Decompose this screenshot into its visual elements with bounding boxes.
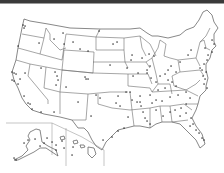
location-dot bbox=[187, 54, 188, 55]
location-dot bbox=[146, 72, 147, 73]
location-dot bbox=[56, 75, 57, 76]
location-dot bbox=[15, 73, 16, 74]
location-dot bbox=[167, 69, 168, 70]
alaska-outline bbox=[14, 129, 58, 160]
location-dot bbox=[149, 65, 150, 66]
location-dot bbox=[201, 69, 202, 70]
location-dot bbox=[204, 78, 205, 79]
location-dot bbox=[195, 129, 196, 130]
location-dot bbox=[207, 54, 208, 55]
location-dot bbox=[55, 144, 56, 145]
location-dot bbox=[84, 76, 85, 77]
location-dot bbox=[131, 54, 132, 55]
location-dot bbox=[211, 51, 212, 52]
location-dot bbox=[149, 123, 150, 124]
location-dot bbox=[169, 96, 170, 97]
inset-frames bbox=[6, 123, 104, 166]
location-dot bbox=[116, 41, 117, 42]
location-dot bbox=[53, 111, 54, 112]
location-dot bbox=[115, 102, 116, 103]
location-dot bbox=[99, 97, 100, 98]
location-dot bbox=[126, 67, 127, 68]
us-outline bbox=[12, 10, 218, 150]
location-dot bbox=[63, 43, 64, 44]
location-dot bbox=[146, 120, 147, 121]
location-dot bbox=[202, 75, 203, 76]
location-dot bbox=[129, 91, 130, 92]
location-dot bbox=[13, 157, 14, 158]
location-dot bbox=[22, 24, 23, 25]
location-dot bbox=[127, 116, 128, 117]
location-dot bbox=[11, 71, 12, 72]
location-dot bbox=[185, 112, 186, 113]
location-dot bbox=[51, 141, 52, 142]
location-dot bbox=[213, 43, 214, 44]
location-dot bbox=[170, 65, 171, 66]
location-dot bbox=[142, 111, 143, 112]
location-dot bbox=[203, 139, 204, 140]
location-dot bbox=[157, 89, 158, 90]
location-dot bbox=[117, 130, 118, 131]
location-dot bbox=[72, 146, 73, 147]
location-dot bbox=[61, 140, 62, 141]
location-dot bbox=[39, 145, 40, 146]
location-dot bbox=[85, 78, 86, 79]
location-dot bbox=[54, 71, 55, 72]
location-dot bbox=[139, 95, 140, 96]
location-dot bbox=[192, 123, 193, 124]
location-dot bbox=[155, 81, 156, 82]
location-dot bbox=[132, 75, 133, 76]
location-dot bbox=[71, 154, 72, 155]
location-dot bbox=[31, 108, 32, 109]
location-dot bbox=[27, 139, 28, 140]
location-dot bbox=[190, 49, 191, 50]
location-dot bbox=[65, 86, 66, 87]
location-dot bbox=[162, 115, 163, 116]
location-dot bbox=[141, 57, 142, 58]
location-dot bbox=[146, 69, 147, 70]
location-dot bbox=[90, 115, 91, 116]
location-dot bbox=[205, 71, 206, 72]
state-borders bbox=[16, 28, 210, 128]
location-dot bbox=[177, 94, 178, 95]
hawaii-outline bbox=[60, 136, 96, 158]
location-dot bbox=[175, 85, 176, 86]
location-dot bbox=[13, 72, 14, 73]
location-dot bbox=[29, 103, 30, 104]
location-dot bbox=[137, 72, 138, 73]
us-map bbox=[0, 0, 224, 173]
location-dot bbox=[53, 38, 54, 39]
location-dot bbox=[175, 71, 176, 72]
location-dot bbox=[11, 79, 12, 80]
location-dot bbox=[23, 27, 24, 28]
location-dot bbox=[204, 47, 205, 48]
location-dot bbox=[19, 78, 20, 79]
location-dot bbox=[211, 39, 212, 40]
location-dot bbox=[87, 78, 88, 79]
location-dot bbox=[111, 136, 112, 137]
location-dot bbox=[131, 99, 132, 100]
location-dot bbox=[13, 80, 14, 81]
location-dot bbox=[136, 101, 137, 102]
location-dot bbox=[40, 67, 41, 68]
location-dot bbox=[151, 102, 152, 103]
location-dot bbox=[150, 77, 151, 78]
location-dot bbox=[15, 159, 16, 160]
location-dot bbox=[199, 67, 200, 68]
location-dot bbox=[159, 75, 160, 76]
location-dot bbox=[98, 30, 99, 31]
location-dot bbox=[17, 83, 18, 84]
location-dot bbox=[185, 103, 186, 104]
location-dot bbox=[123, 127, 124, 128]
location-dot bbox=[27, 102, 28, 103]
location-dot bbox=[23, 95, 24, 96]
location-dot bbox=[171, 81, 172, 82]
location-dot bbox=[155, 109, 156, 110]
location-dot bbox=[206, 59, 207, 60]
location-dot bbox=[164, 87, 165, 88]
location-dot bbox=[140, 105, 141, 106]
location-dot bbox=[34, 138, 35, 139]
location-dot bbox=[63, 147, 64, 148]
location-dot bbox=[179, 115, 180, 116]
location-dot bbox=[161, 100, 162, 101]
